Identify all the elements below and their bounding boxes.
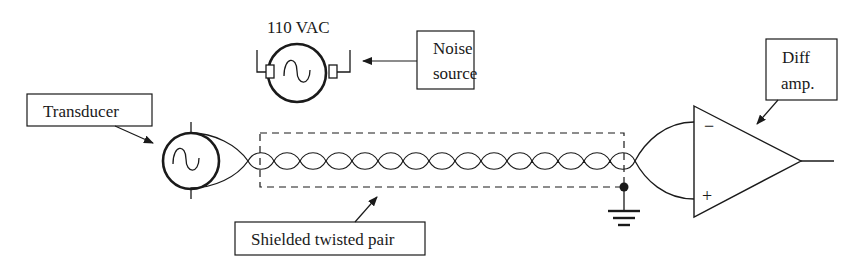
plug-lead-left — [257, 50, 266, 72]
cable-callout: Shielded twisted pair — [235, 197, 425, 255]
differential-amplifier: − + — [635, 106, 834, 217]
transducer-source — [163, 122, 248, 199]
transducer-arrow — [115, 126, 153, 143]
twisted-pair-wire-b — [248, 161, 635, 169]
sine-wave-icon — [173, 148, 199, 170]
sine-wave-icon — [284, 60, 310, 82]
twisted-pair-cable — [248, 153, 635, 170]
diff-amp-label-line1: Diff — [782, 48, 810, 67]
shield-ground — [608, 183, 640, 226]
plug-prong-left — [266, 65, 274, 78]
amp-input-lead-noninverting — [635, 161, 694, 199]
cable-label: Shielded twisted pair — [251, 230, 395, 249]
amp-input-lead-inverting — [635, 122, 694, 161]
noise-source-callout: Noise source — [363, 31, 477, 89]
ac-source-label: 110 VAC — [267, 18, 330, 37]
diff-amp-arrow — [757, 100, 778, 124]
diagram-canvas: 110 VAC Noise source Transducer — [0, 0, 860, 267]
amp-noninverting-input-sign: + — [702, 186, 712, 206]
plug-lead-right — [337, 50, 350, 72]
twisted-pair-wire-a — [248, 153, 635, 161]
ac-noise-source: 110 VAC — [257, 18, 350, 102]
noise-source-label-line2: source — [433, 64, 477, 83]
plug-prong-right — [329, 65, 337, 78]
amp-inverting-input-sign: − — [704, 116, 714, 136]
noise-source-label-line1: Noise — [433, 39, 473, 58]
transducer-circle — [163, 133, 219, 189]
diff-amp-callout: Diff amp. — [757, 39, 837, 124]
transducer-callout: Transducer — [27, 94, 153, 143]
diff-amp-label-line2: amp. — [781, 74, 815, 93]
cable-shield — [260, 133, 624, 187]
transducer-label: Transducer — [43, 102, 119, 121]
cable-arrow — [355, 197, 377, 222]
